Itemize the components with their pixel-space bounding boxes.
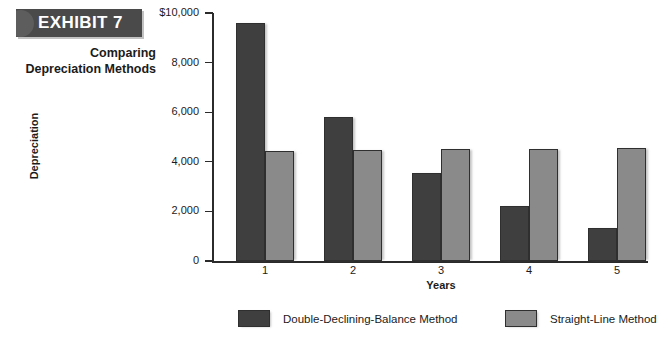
y-axis-tick-label: 6,000 <box>133 105 199 117</box>
legend-label: Double-Declining-Balance Method <box>283 313 458 325</box>
bar-ddb-year-2 <box>324 117 353 261</box>
legend-label: Straight-Line Method <box>550 313 657 325</box>
bar-ddb-year-1 <box>236 23 265 261</box>
y-axis-tick <box>205 211 213 212</box>
x-axis-tick-label: 1 <box>245 264 285 276</box>
x-axis-tick-label: 2 <box>333 264 373 276</box>
x-axis-tick-label: 3 <box>421 264 461 276</box>
y-axis-tick-label: 4,000 <box>133 155 199 167</box>
y-axis-tick <box>205 62 213 63</box>
x-axis-tick-label: 4 <box>509 264 549 276</box>
bar-straight-line-year-1 <box>265 151 294 261</box>
bar-straight-line-year-3 <box>441 149 470 261</box>
x-axis-title: Years <box>411 279 471 291</box>
y-axis-tick-label: $10,000 <box>133 6 199 18</box>
legend-item: Straight-Line Method <box>505 310 657 327</box>
bar-ddb-year-4 <box>500 206 529 261</box>
legend-swatch <box>505 310 537 327</box>
y-axis-tick <box>205 161 213 162</box>
bar-ddb-year-3 <box>412 173 441 261</box>
legend-item: Double-Declining-Balance Method <box>238 310 458 327</box>
legend-swatch <box>238 310 270 327</box>
bar-ddb-year-5 <box>588 228 617 261</box>
bar-straight-line-year-5 <box>617 148 646 261</box>
y-axis-tick-label: 0 <box>133 254 199 266</box>
y-axis-tick-label: 8,000 <box>133 56 199 68</box>
y-axis-tick-label: 2,000 <box>133 204 199 216</box>
x-axis-tick-label: 5 <box>597 264 637 276</box>
chart-legend: Double-Declining-Balance MethodStraight-… <box>0 306 668 330</box>
bar-straight-line-year-2 <box>353 150 382 261</box>
depreciation-bar-chart: Depreciation Years 02,0004,0006,0008,000… <box>0 0 668 300</box>
y-axis-tick <box>205 260 213 261</box>
bar-straight-line-year-4 <box>529 149 558 261</box>
y-axis-title: Depreciation <box>28 96 40 196</box>
y-axis-tick <box>205 112 213 113</box>
y-axis-tick <box>205 12 213 13</box>
